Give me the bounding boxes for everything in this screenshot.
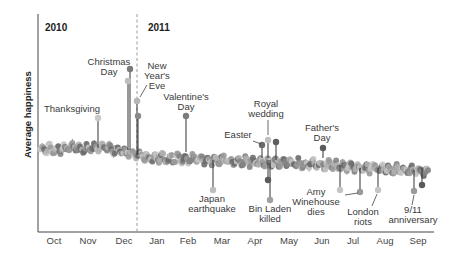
label-father-2: Day xyxy=(314,132,331,143)
tick-mar: Mar xyxy=(214,235,230,246)
tick-sep: Sep xyxy=(410,235,427,246)
y-axis-label: Average happiness xyxy=(22,71,33,158)
tick-jan: Jan xyxy=(149,235,164,246)
tick-aug: Aug xyxy=(377,235,394,246)
event-spikes xyxy=(98,69,422,200)
tick-jul: Jul xyxy=(347,235,359,246)
tick-apr: Apr xyxy=(248,235,263,246)
event-dots xyxy=(95,66,425,203)
tick-jun: Jun xyxy=(314,235,329,246)
label-royal-2: wedding xyxy=(247,108,283,119)
tick-oct: Oct xyxy=(47,235,62,246)
label-london-2: riots xyxy=(354,216,372,227)
label-japan-2: earthquake xyxy=(188,203,236,214)
label-nye-3: Eve xyxy=(149,80,165,91)
label-thanksgiving: Thanksgiving xyxy=(44,103,100,114)
label-amy-3: dies xyxy=(307,206,325,217)
tick-nov: Nov xyxy=(80,235,97,246)
tick-may: May xyxy=(280,235,298,246)
tick-dec: Dec xyxy=(116,235,133,246)
label-valentine-2: Day xyxy=(178,101,195,112)
label-easter: Easter xyxy=(224,129,251,140)
happiness-chart: 2010 2011 Average happiness Oct Nov Dec … xyxy=(0,0,462,258)
label-christmas-2: Day xyxy=(101,66,118,77)
tick-feb: Feb xyxy=(180,235,196,246)
label-binladen-2: killed xyxy=(259,213,281,224)
year-label-2010: 2010 xyxy=(45,22,68,33)
label-911-2: anniversary xyxy=(388,214,437,225)
x-tick-labels: Oct Nov Dec Jan Feb Mar Apr May Jun Jul … xyxy=(47,235,427,246)
daily-data-points xyxy=(37,139,431,179)
year-label-2011: 2011 xyxy=(148,22,170,33)
